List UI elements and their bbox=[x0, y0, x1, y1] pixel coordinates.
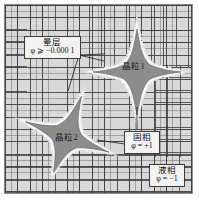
liquid-phase-callout: 液相 φ = −1 bbox=[149, 164, 185, 187]
grain-1-label: 晶粒1 bbox=[122, 59, 145, 71]
coarse-mesh-patch-top-left bbox=[5, 5, 91, 31]
halo-layer-callout: 晕层 φ ⩾ −0.000 1 bbox=[24, 36, 81, 59]
simulation-domain: 晶粒1 晶粒2 晕层 φ ⩾ −0.000 1 固相 φ = +1 液相 φ =… bbox=[4, 4, 193, 194]
phase-field-dendrite-figure: 晶粒1 晶粒2 晕层 φ ⩾ −0.000 1 固相 φ = +1 液相 φ =… bbox=[0, 0, 199, 206]
liquid-phase-callout-equation: φ = −1 bbox=[152, 175, 182, 183]
solid-phase-callout-equation: φ = +1 bbox=[127, 142, 157, 150]
solid-phase-callout: 固相 φ = +1 bbox=[124, 131, 160, 154]
halo-layer-callout-equation: φ ⩾ −0.000 1 bbox=[27, 47, 78, 55]
grain-2-label: 晶粒2 bbox=[55, 130, 78, 142]
